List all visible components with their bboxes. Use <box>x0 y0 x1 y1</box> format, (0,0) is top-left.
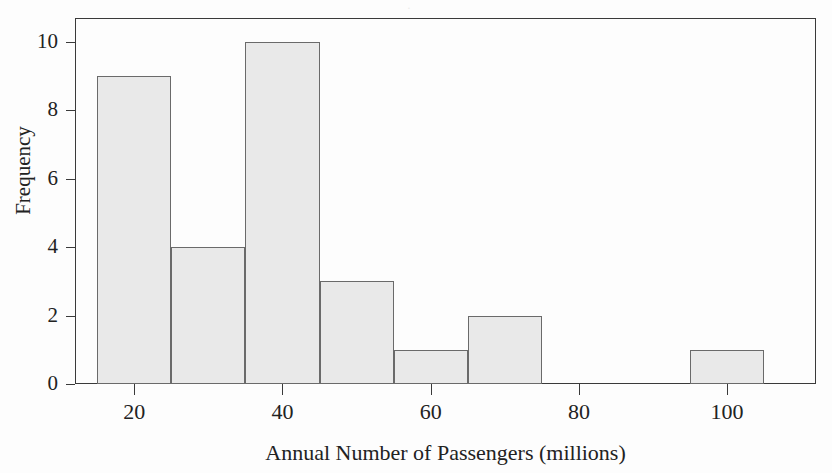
x-axis-tick-label: 20 <box>99 399 169 425</box>
page-bleed-through-text: · <box>0 0 832 18</box>
x-axis-tick-label: 60 <box>396 399 466 425</box>
x-axis-label: Annual Number of Passengers (millions) <box>75 440 816 466</box>
x-axis-tick-mark <box>431 384 432 395</box>
histogram-bar <box>97 76 171 384</box>
histogram-bar <box>171 247 245 384</box>
x-axis-tick-label: 100 <box>692 399 762 425</box>
y-axis-tick-mark <box>66 316 75 317</box>
y-axis-tick-label: 2 <box>20 305 58 326</box>
y-axis-tick-mark <box>66 110 75 111</box>
histogram-bar <box>245 42 319 384</box>
y-axis-tick-label: 0 <box>20 373 58 394</box>
histogram-bar <box>394 350 468 384</box>
x-axis-tick-label: 80 <box>544 399 614 425</box>
histogram-bar <box>320 281 394 384</box>
x-axis-tick-mark <box>579 384 580 395</box>
x-axis-tick-mark <box>282 384 283 395</box>
x-axis-tick-label: 40 <box>247 399 317 425</box>
x-axis-tick-mark <box>134 384 135 395</box>
y-axis-tick-label: 10 <box>20 31 58 52</box>
y-axis-tick-mark <box>66 247 75 248</box>
x-axis-tick-mark <box>727 384 728 395</box>
histogram-bar <box>690 350 764 384</box>
y-axis-tick-mark <box>66 42 75 43</box>
histogram-figure: · 0246810 20406080100 Frequency Annual N… <box>0 0 832 473</box>
histogram-bar <box>468 316 542 384</box>
y-axis-tick-mark <box>66 384 75 385</box>
y-axis-tick-mark <box>66 179 75 180</box>
histogram-bars <box>75 18 816 384</box>
y-axis-label: Frequency <box>13 96 34 246</box>
